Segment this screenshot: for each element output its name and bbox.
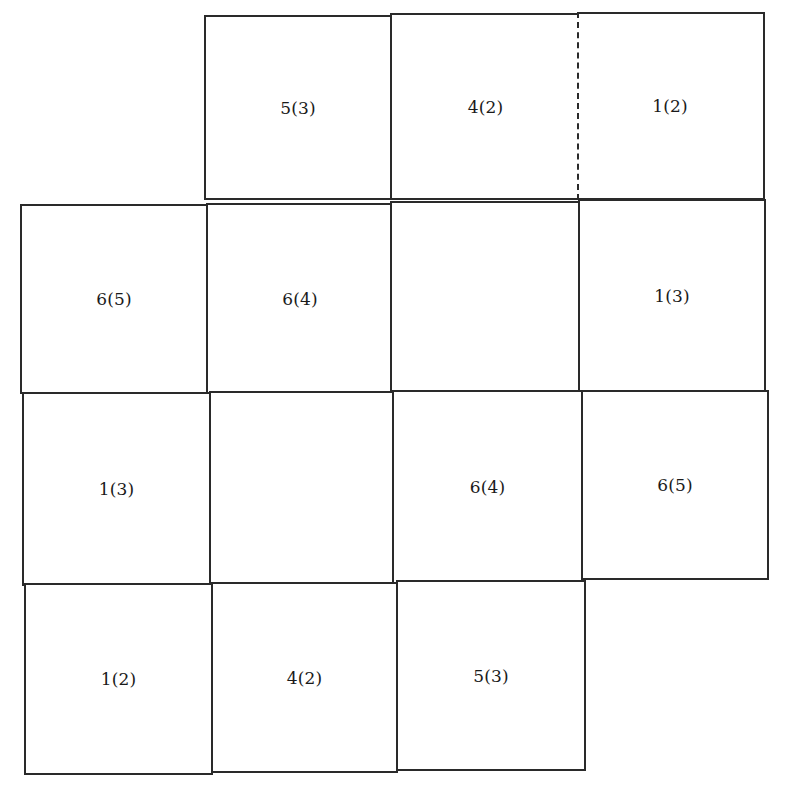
cell-r0-c3: 1(2): [577, 12, 765, 200]
cell-label: 4(2): [287, 668, 323, 688]
cell-label: 1(2): [101, 669, 137, 689]
cell-label: 6(4): [470, 477, 506, 497]
cell-r3-c0: 1(2): [24, 583, 213, 775]
cell-r2-c3: 6(5): [581, 390, 769, 580]
cell-r0-c2: 4(2): [390, 13, 579, 200]
cell-label: 5(3): [280, 98, 316, 118]
cell-label: 4(2): [468, 97, 504, 117]
cell-r1-c2: [390, 201, 580, 393]
cell-r1-c0: 6(5): [20, 204, 208, 394]
cell-label: 5(3): [473, 666, 509, 686]
cell-label: 1(3): [99, 479, 135, 499]
cell-label: 6(5): [96, 289, 132, 309]
cell-label: 1(3): [654, 286, 690, 306]
dashed-divider: [577, 12, 579, 200]
cell-label: 1(2): [652, 96, 688, 116]
cell-r3-c2: 5(3): [396, 580, 586, 771]
cell-r0-c1: 5(3): [204, 15, 392, 200]
cell-r1-c1: 6(4): [206, 203, 394, 394]
cell-r3-c1: 4(2): [211, 582, 398, 773]
cell-r2-c1: [209, 391, 396, 585]
cell-r2-c0: 1(3): [22, 392, 211, 586]
cell-r1-c3: 1(3): [578, 199, 766, 392]
grid-diagram: 5(3) 4(2) 1(2) 6(5) 6(4) 1(3) 1(3) 6(4) …: [0, 0, 787, 795]
cell-label: 6(5): [657, 475, 693, 495]
cell-r2-c2: 6(4): [392, 390, 583, 584]
cell-label: 6(4): [282, 289, 318, 309]
